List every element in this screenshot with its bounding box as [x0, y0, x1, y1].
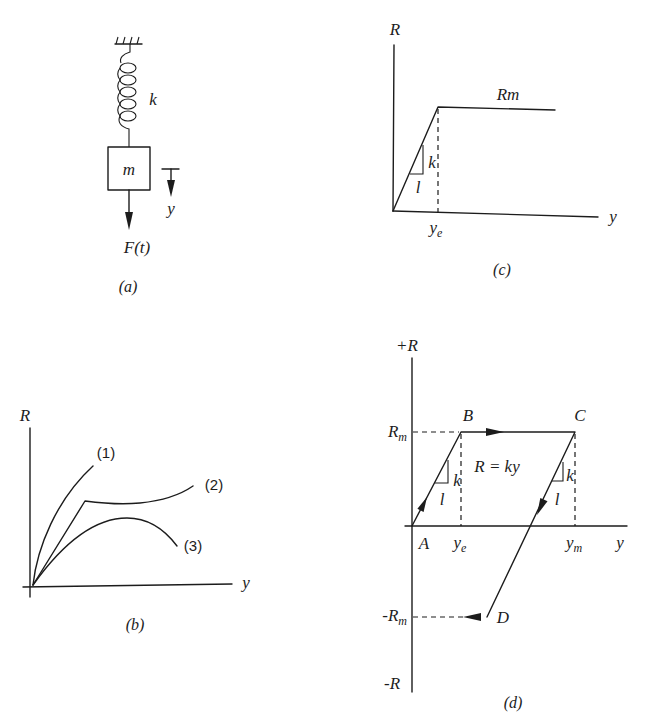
curve-1: [33, 466, 93, 585]
panel-d-caption: (d): [504, 694, 523, 712]
slope-ab-run-label: l: [440, 490, 445, 509]
y-axis-label: y: [240, 573, 250, 592]
yield-displacement-label: ye: [428, 218, 444, 240]
y-axis-label: y: [607, 207, 617, 226]
neg-rm-sub: m: [398, 614, 407, 628]
point-d-label: D: [496, 608, 510, 627]
displacement-arrow-icon: [162, 169, 179, 197]
arrow-da-icon: [463, 613, 481, 621]
plateau-label: Rm: [496, 85, 520, 104]
panel-a-caption: (a): [119, 278, 138, 296]
rm-base: R: [387, 422, 399, 441]
y-axis-label: y: [614, 533, 624, 552]
ym-base: y: [564, 533, 574, 552]
force-arrow-icon: [125, 190, 133, 230]
slope-triangle: [410, 145, 423, 174]
curve-3: [33, 518, 177, 585]
r-axis-top-label: +R: [396, 336, 418, 355]
force-label: F(t): [123, 238, 151, 257]
arrow-cd-icon: [537, 498, 548, 515]
neg-rm-label: -Rm: [382, 606, 407, 628]
spring-constant-label: k: [149, 90, 157, 109]
point-a-label: A: [418, 534, 430, 553]
panel-d-hysteresis: +R -R k l k l R = ky A B C D Rm -Rm ye y…: [382, 336, 627, 712]
r-axis-label: R: [389, 20, 401, 39]
curve-2: [33, 486, 193, 585]
neg-rm-base: -R: [382, 606, 399, 625]
y-axis: [23, 584, 232, 587]
mass-label: m: [123, 160, 135, 179]
ym-label: ym: [564, 533, 583, 555]
panel-b-caption: (b): [126, 616, 145, 634]
yield-sub: e: [437, 226, 443, 240]
slope-ab-rise-label: k: [453, 471, 461, 490]
panel-c-elastoplastic: R y Rm ye k l (c): [389, 20, 617, 279]
arrow-bc-icon: [486, 428, 504, 436]
rm-sub: m: [398, 430, 407, 444]
yield-base: y: [428, 218, 438, 237]
ye-sub: e: [461, 541, 467, 555]
displacement-label: y: [165, 199, 175, 218]
r-axis-bottom-label: -R: [384, 674, 401, 693]
point-c-label: C: [574, 406, 586, 425]
point-b-label: B: [463, 406, 474, 425]
panel-b-resistance-curves: R y (1) (2) (3) (b): [19, 406, 250, 634]
r-axis: [393, 45, 394, 211]
arrow-ab-icon: [417, 497, 427, 512]
slope-rise-label: k: [428, 153, 436, 172]
curve-1-label: (1): [97, 444, 115, 461]
slope-run-label: l: [416, 178, 421, 197]
r-axis-label: R: [19, 406, 31, 425]
equation-label: R = ky: [473, 457, 520, 476]
ye-label: ye: [452, 533, 468, 555]
ym-sub: m: [573, 541, 582, 555]
ye-base: y: [452, 533, 462, 552]
curve-3-label: (3): [184, 537, 202, 554]
slope-cd-rise-label: k: [566, 466, 574, 485]
y-axis: [393, 211, 598, 217]
curve-2-label: (2): [205, 476, 223, 493]
panel-a-spring-mass: k m F(t) y (a): [108, 37, 179, 296]
rm-label: Rm: [387, 422, 407, 444]
spring-icon: [118, 44, 136, 147]
fixed-support-icon: [115, 37, 142, 44]
panel-c-caption: (c): [493, 261, 511, 279]
slope-cd-run-label: l: [555, 490, 560, 509]
figure-canvas: k m F(t) y (a) R y Rm ye k l (c): [0, 0, 646, 726]
